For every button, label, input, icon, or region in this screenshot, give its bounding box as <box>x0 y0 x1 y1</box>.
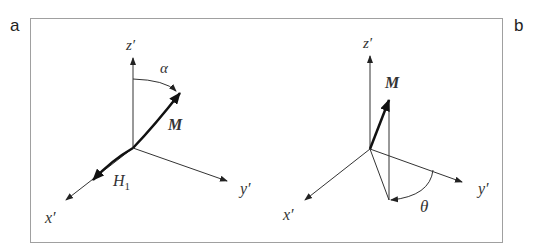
figure-frame <box>31 19 503 243</box>
alpha-arc <box>133 79 176 91</box>
z-label-a: z′ <box>125 37 136 53</box>
m-label-b: M <box>384 74 400 91</box>
y-label-b: y′ <box>476 180 489 198</box>
panel-a: z′ α M H1 y′ x′ <box>44 37 251 226</box>
theta-arc <box>391 170 433 200</box>
theta-label: θ <box>420 197 428 216</box>
x-label-b: x′ <box>282 206 294 223</box>
diagram-canvas: z′ α M H1 y′ x′ z′ M θ y′ x′ <box>0 0 546 251</box>
y-axis-b <box>370 149 462 182</box>
panel-b: z′ M θ y′ x′ <box>282 35 489 223</box>
y-axis-a <box>133 148 227 181</box>
m-vector-b <box>370 100 389 149</box>
h1-label: H1 <box>112 172 130 192</box>
x-label-a: x′ <box>44 209 56 226</box>
x-axis-b <box>305 149 370 200</box>
y-label-a: y′ <box>238 180 251 198</box>
m-label-a: M <box>167 116 183 133</box>
z-label-b: z′ <box>362 35 373 51</box>
alpha-label: α <box>160 60 169 76</box>
projection-line <box>370 149 389 200</box>
